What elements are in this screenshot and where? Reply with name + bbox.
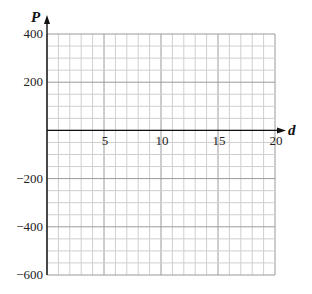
- y-axis-label: P: [31, 9, 41, 25]
- x-tick-label: 5: [102, 133, 109, 148]
- y-axis-arrow-icon: [44, 15, 50, 24]
- y-tick-label: −600: [16, 267, 43, 282]
- y-tick-label: 200: [24, 74, 44, 89]
- x-tick-label: 15: [213, 133, 226, 148]
- y-tick-label: −200: [16, 171, 43, 186]
- graph-paper-chart: Pd5101520400200−200−400−600: [0, 0, 312, 294]
- y-tick-label: −400: [16, 219, 43, 234]
- y-tick-label: 400: [24, 26, 44, 41]
- x-axis-label: d: [288, 122, 296, 138]
- x-tick-label: 20: [270, 133, 283, 148]
- x-tick-label: 10: [156, 133, 169, 148]
